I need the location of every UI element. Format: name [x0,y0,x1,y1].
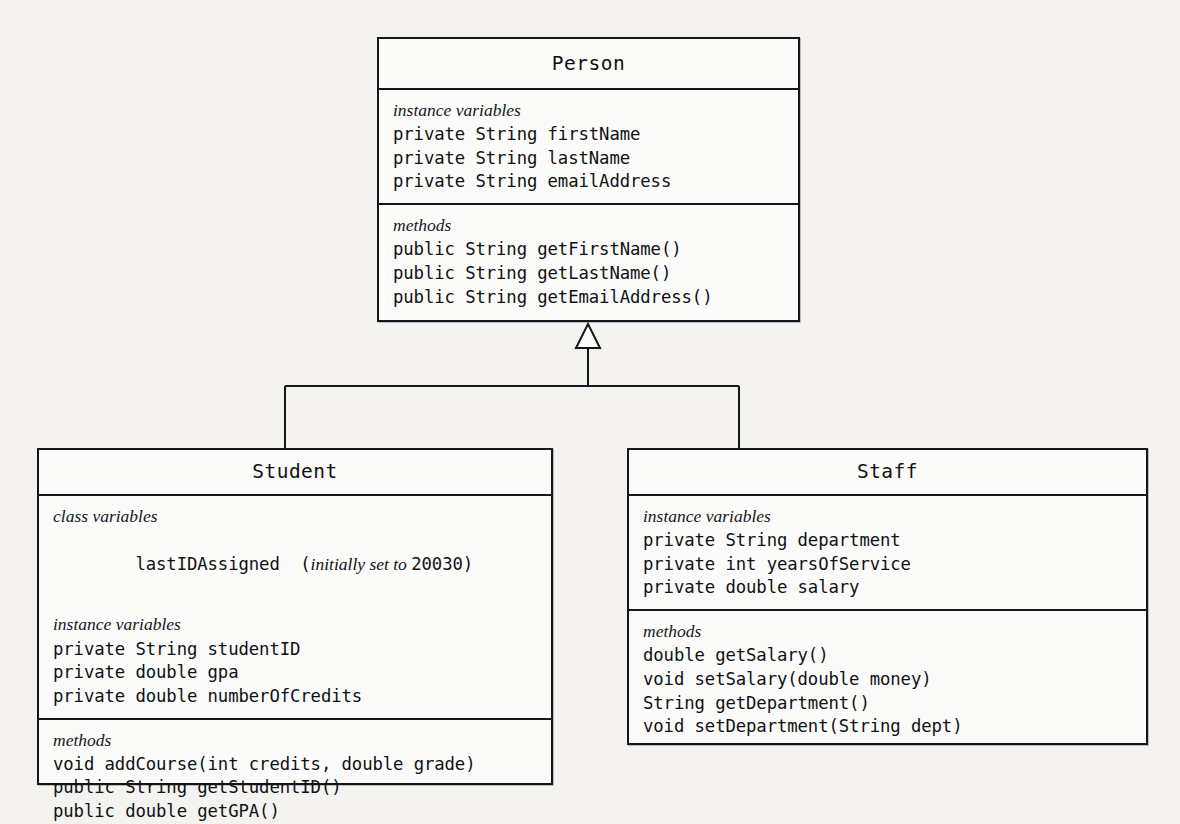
compartment-student-variables: class variables lastIDAssigned (initiall… [39,494,551,718]
method-line: double getSalary() [643,644,1146,668]
attribute-line: private double numberOfCredits [53,685,551,709]
class-name-person: Person [379,39,798,88]
class-box-student[interactable]: Student class variables lastIDAssigned (… [37,448,553,785]
section-label-instance-variables: instance variables [393,99,798,122]
attribute-line: private String emailAddress [393,170,798,194]
compartment-student-methods: methods void addCourse(int credits, doub… [39,718,551,824]
attribute-line: private String department [643,529,1146,553]
attribute-line: private String studentID [53,638,551,662]
method-line: void setDepartment(String dept) [643,715,1146,739]
section-label-instance-variables: instance variables [53,613,551,636]
class-variable-value: 20030) [411,554,473,574]
section-label-methods: methods [643,620,1146,643]
compartment-person-methods: methods public String getFirstName() pub… [379,203,798,318]
method-line: public String getEmailAddress() [393,286,798,310]
attribute-line: private String lastName [393,147,798,171]
method-line: public String getStudentID() [53,776,551,800]
class-name-student: Student [39,450,551,494]
attribute-line: private int yearsOfService [643,553,1146,577]
class-box-person[interactable]: Person instance variables private String… [377,37,800,322]
class-variable-name: lastIDAssigned ( [135,554,310,574]
method-line: public double getGPA() [53,800,551,824]
compartment-spacer [53,600,551,613]
method-line: String getDepartment() [643,692,1146,716]
class-name-staff: Staff [629,450,1146,494]
method-line: public String getFirstName() [393,238,798,262]
section-label-methods: methods [53,729,551,752]
section-label-methods: methods [393,214,798,237]
class-variable-note: initially set to [311,554,412,574]
class-box-staff[interactable]: Staff instance variables private String … [627,448,1148,745]
attribute-line: private double salary [643,576,1146,600]
compartment-person-variables: instance variables private String firstN… [379,88,798,203]
attribute-line: private double gpa [53,661,551,685]
class-variable-line: lastIDAssigned (initially set to 20030) [53,529,551,600]
compartment-staff-variables: instance variables private String depart… [629,494,1146,609]
method-line: public String getLastName() [393,262,798,286]
attribute-line: private String firstName [393,123,798,147]
section-label-class-variables: class variables [53,505,551,528]
compartment-staff-methods: methods double getSalary() void setSalar… [629,609,1146,748]
method-line: void setSalary(double money) [643,668,1146,692]
section-label-instance-variables: instance variables [643,505,1146,528]
diagram-canvas: Person instance variables private String… [0,0,1180,824]
method-line: void addCourse(int credits, double grade… [53,753,551,777]
inheritance-triangle-icon [576,324,600,348]
